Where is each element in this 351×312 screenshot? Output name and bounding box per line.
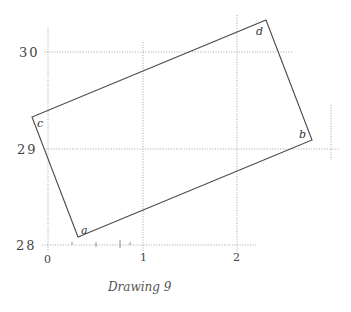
vertex-label-a: a <box>81 224 88 237</box>
x-label-0: 0 <box>44 253 51 266</box>
x-label-2: 2 <box>233 251 240 264</box>
y-label-29: 29 <box>17 142 38 157</box>
vertex-label-c: c <box>37 117 43 130</box>
vertex-label-b: b <box>299 128 306 141</box>
rotated-rectangle <box>32 20 312 237</box>
axis-minor-ticks <box>72 240 130 248</box>
drawing-canvas: 30 29 28 0 1 2 a b d c Drawing 9 <box>0 0 351 312</box>
y-label-30: 30 <box>19 45 40 60</box>
x-label-1: 1 <box>140 251 147 264</box>
vertex-label-d: d <box>256 25 263 38</box>
y-label-28: 28 <box>16 238 37 253</box>
figure-caption: Drawing 9 <box>107 280 172 294</box>
